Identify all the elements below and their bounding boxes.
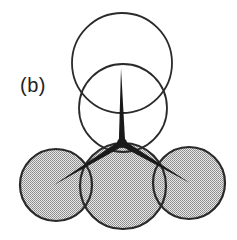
junction-node	[117, 138, 127, 148]
vertical-spoke	[119, 68, 125, 143]
tetrahedral-bond-diagram	[0, 0, 237, 240]
panel-label: (b)	[20, 74, 46, 97]
shaded-circles	[20, 143, 225, 229]
